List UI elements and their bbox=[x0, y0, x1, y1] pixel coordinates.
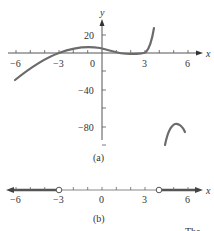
x-tick-label: 6 bbox=[185, 58, 190, 69]
y-tick-label: −80 bbox=[78, 122, 94, 133]
open-point-4 bbox=[156, 187, 162, 193]
open-point-neg3 bbox=[56, 187, 62, 193]
y-axis-label: y bbox=[99, 7, 105, 18]
tick-label: 0 bbox=[99, 194, 104, 205]
x-tick-label: −6 bbox=[10, 58, 21, 69]
left-arrow-icon bbox=[6, 187, 14, 193]
caption-a: (a) bbox=[93, 152, 104, 164]
curve-right-piece bbox=[165, 124, 185, 145]
tick-label: 6 bbox=[185, 194, 190, 205]
tick-label: −6 bbox=[10, 194, 21, 205]
tick-label: 3 bbox=[142, 194, 147, 205]
y-ticks bbox=[102, 35, 106, 145]
footer-text: The bbox=[185, 226, 201, 231]
number-line-b: x −6 −3 0 3 6 (b) bbox=[6, 185, 211, 225]
caption-b: (b) bbox=[93, 213, 105, 225]
x-axis-arrow-icon bbox=[196, 51, 203, 56]
number-line-x-label: x bbox=[205, 185, 211, 196]
x-tick-label: 3 bbox=[142, 58, 147, 69]
right-arrow-icon bbox=[195, 187, 203, 193]
y-axis-arrow-icon bbox=[100, 19, 105, 26]
y-tick-label: −40 bbox=[78, 85, 94, 96]
x-tick-label: 0 bbox=[90, 58, 95, 69]
x-tick-label: −3 bbox=[53, 58, 64, 69]
x-axis-label: x bbox=[205, 48, 211, 59]
tick-label: −3 bbox=[53, 194, 64, 205]
graph-a: y x −6 −3 0 3 6 20 −40 −80 (a) bbox=[8, 7, 211, 164]
y-tick-label: 20 bbox=[84, 30, 94, 41]
figure: y x −6 −3 0 3 6 20 −40 −80 (a) x −6 bbox=[0, 0, 214, 231]
